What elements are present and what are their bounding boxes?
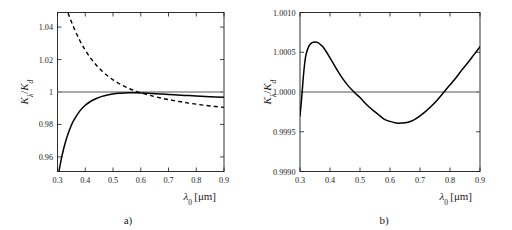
x-tick-label: 0.6 xyxy=(136,176,146,185)
x-tick-label: 0.8 xyxy=(445,176,455,185)
figure-container: 0.30.40.50.60.70.80.90.960.9811.021.04Kλ… xyxy=(0,0,512,230)
panel-a-plot: 0.30.40.50.60.70.80.90.960.9811.021.04Kλ… xyxy=(0,0,256,230)
x-axis-title-unit: [μm] xyxy=(448,190,472,202)
panel-b: 0.30.40.50.60.70.80.90.99900.99951.00001… xyxy=(256,0,512,230)
x-tick-label: 0.7 xyxy=(163,176,173,185)
solid-curve xyxy=(58,93,225,180)
y-axis-title-sub2: d xyxy=(268,79,277,83)
x-tick-label: 0.3 xyxy=(52,176,62,185)
y-tick-label: 0.9990 xyxy=(273,168,296,177)
y-tick-label: 0.9995 xyxy=(273,128,296,137)
y-tick-label: 1.0010 xyxy=(273,9,296,18)
y-tick-label: 1.04 xyxy=(39,23,53,32)
y-tick-label: 0.98 xyxy=(39,120,53,129)
panel-b-caption: b) xyxy=(256,214,512,226)
x-tick-label: 0.5 xyxy=(108,176,118,185)
x-tick-label: 0.5 xyxy=(355,176,365,185)
curves-group xyxy=(58,0,225,180)
curves-group xyxy=(300,42,480,123)
y-tick-label: 0.96 xyxy=(39,153,53,162)
x-tick-label: 0.4 xyxy=(80,176,90,185)
panel-a: 0.30.40.50.60.70.80.90.960.9811.021.04Kλ… xyxy=(0,0,256,230)
x-tick-label: 0.9 xyxy=(219,176,229,185)
y-axis-title-sub2: d xyxy=(26,79,35,83)
x-tick-label: 0.6 xyxy=(385,176,395,185)
x-tick-label: 0.3 xyxy=(295,176,305,185)
y-axis-title: Kλ/Kd xyxy=(18,79,35,105)
panel-a-caption: a) xyxy=(0,214,256,226)
x-tick-label: 0.9 xyxy=(475,176,485,185)
panel-b-plot: 0.30.40.50.60.70.80.90.99900.99951.00001… xyxy=(256,0,512,230)
x-tick-label: 0.8 xyxy=(191,176,201,185)
y-tick-label: 1 xyxy=(49,88,53,97)
x-axis-title: λ0 [μm] xyxy=(183,190,217,207)
x-axis-title: λ0 [μm] xyxy=(439,190,473,207)
x-tick-label: 0.7 xyxy=(415,176,425,185)
x-axis-title-unit: [μm] xyxy=(192,190,216,202)
y-tick-label: 1.0005 xyxy=(273,48,296,57)
solid-curve xyxy=(300,42,480,123)
y-tick-label: 1.02 xyxy=(39,56,53,65)
x-tick-label: 0.4 xyxy=(325,176,335,185)
